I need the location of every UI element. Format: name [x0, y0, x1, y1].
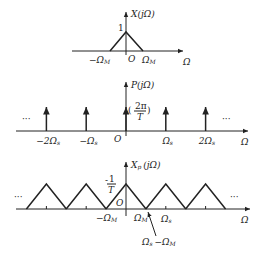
peak-denominator: T — [108, 185, 115, 195]
sample-freq-label: Ωs — [160, 214, 172, 224]
paren-close: ) — [147, 105, 151, 115]
panel-middle: P(jΩ) ( 2π T ) ··· ··· O Ω −2Ωs−ΩsΩs2Ωs — [16, 80, 249, 147]
x-axis-label: Ω — [240, 215, 249, 225]
y-axis-label: X(jΩ) — [130, 9, 155, 19]
annotation-label: Ωs−ΩM — [141, 237, 177, 247]
weight-denominator: T — [137, 112, 144, 122]
origin-label: O — [116, 198, 124, 208]
replica-triangle-4 — [186, 184, 226, 209]
ellipsis-right: ··· — [222, 114, 231, 124]
ellipsis-right: ··· — [230, 192, 239, 202]
peak-label: - 1 T — [105, 174, 116, 195]
ellipsis-left: ··· — [14, 192, 23, 202]
replica-triangle-3 — [146, 184, 186, 209]
weight-numerator: 2π — [135, 101, 147, 111]
impulse-label-3: Ωs — [161, 136, 173, 146]
impulse-label-4: 2Ωs — [198, 136, 215, 146]
annotation-arrow — [148, 212, 156, 236]
pos-limit-label: ΩM — [133, 213, 148, 223]
replica-triangle-1 — [66, 184, 106, 209]
peak-numerator: 1 — [109, 174, 115, 184]
pos-limit-label: ΩM — [141, 55, 156, 65]
panel-top: X(jΩ) 1 −ΩM O ΩM Ω — [72, 9, 191, 67]
impulse-weight-label: ( 2π T ) — [128, 101, 151, 122]
impulse-label-1: −Ωs — [79, 136, 97, 146]
y-axis-label: P(jΩ) — [130, 80, 155, 90]
replica-triangle-0 — [26, 184, 66, 209]
paren-open: ( — [128, 105, 132, 115]
neg-limit-label: −ΩM — [96, 213, 118, 223]
ellipsis-left: ··· — [22, 114, 31, 124]
neg-limit-label: −ΩM — [89, 55, 111, 65]
x-axis-label: Ω — [240, 137, 249, 147]
panel-bottom: Xp(jΩ) - 1 T O −ΩM ΩM Ωs Ω ··· ··· Ωs−ΩM — [14, 160, 250, 247]
sampling-spectrum-diagram: X(jΩ) 1 −ΩM O ΩM Ω P(jΩ) ( 2π T ) ··· ··… — [0, 0, 262, 256]
y-axis-label: Xp(jΩ) — [130, 160, 161, 171]
origin-label: O — [114, 134, 122, 144]
peak-label: 1 — [118, 23, 124, 33]
x-axis-label: Ω — [182, 57, 191, 67]
impulse-label-0: −2Ωs — [36, 136, 60, 146]
origin-label: O — [128, 54, 136, 64]
